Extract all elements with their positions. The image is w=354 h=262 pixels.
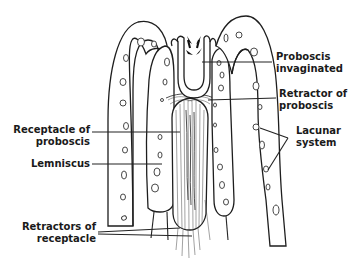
label-line: Proboscis	[276, 51, 343, 63]
right-lemniscus	[212, 48, 234, 240]
label-line: Lacunar	[296, 125, 341, 137]
label-line: Lemniscus	[31, 158, 90, 170]
label-line: proboscis	[279, 100, 347, 112]
label-line: system	[296, 137, 341, 149]
label-line: receptacle	[22, 233, 96, 245]
label-line: invaginated	[276, 63, 343, 75]
label-proboscis-invaginated: Proboscis invaginated	[276, 51, 343, 75]
receptacle	[172, 98, 210, 258]
label-line: Receptacle of	[13, 124, 90, 136]
label-line: Retractors of	[22, 221, 96, 233]
left-lemniscus	[147, 46, 174, 240]
label-line: proboscis	[13, 136, 90, 148]
label-lacunar-system: Lacunar system	[296, 125, 341, 149]
label-receptacle-of-proboscis: Receptacle of proboscis	[13, 124, 90, 148]
label-line: Retractor of	[279, 88, 347, 100]
proboscis-invaginated	[171, 36, 216, 98]
label-retractors-of-receptacle: Retractors of receptacle	[22, 221, 96, 245]
label-retractor-of-proboscis: Retractor of proboscis	[279, 88, 347, 112]
label-lemniscus: Lemniscus	[31, 158, 90, 170]
